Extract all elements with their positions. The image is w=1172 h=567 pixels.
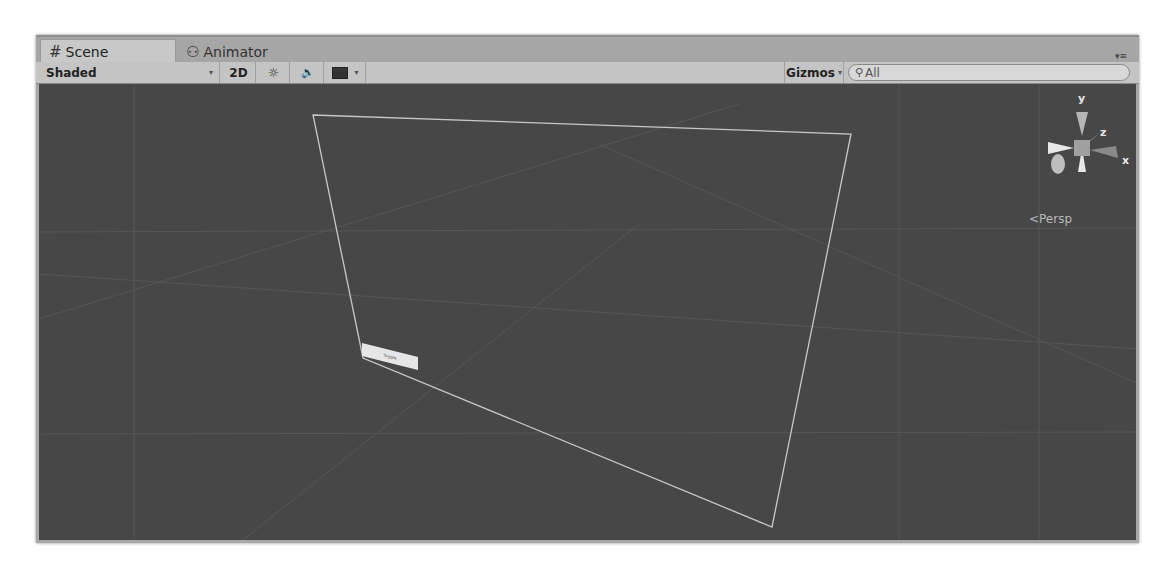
tab-scene[interactable]: # Scene [40, 39, 176, 64]
speaker-icon: 🔈 [301, 66, 315, 79]
search-icon: ⚲ [855, 66, 863, 79]
tab-animator-label: Animator [203, 44, 267, 60]
audio-toggle-button[interactable]: 🔈 [292, 62, 324, 83]
chevron-down-icon: ▾ [209, 68, 213, 77]
toggle-2d-button[interactable]: 2D [222, 62, 256, 83]
scene-window: # Scene ⚇ Animator ▾≡ Shaded ▾ 2D ☼ 🔈 ▾ … [36, 35, 1139, 543]
gizmos-dropdown[interactable]: Gizmos ▾ [784, 62, 844, 83]
image-icon [332, 67, 348, 79]
axis-gizmo-icon [1038, 92, 1128, 192]
scene-search-input[interactable]: ⚲ All [848, 64, 1130, 81]
scene-viewport[interactable]: Toggle y z x <Persp [36, 84, 1139, 543]
orientation-gizmo[interactable]: y z x [1038, 92, 1128, 192]
scene-grid [39, 84, 1139, 543]
projection-label: Persp [1039, 212, 1072, 226]
x-axis-label: x [1122, 154, 1129, 167]
gizmos-label: Gizmos [786, 66, 835, 80]
draw-mode-label: Shaded [46, 66, 97, 80]
z-axis-label: z [1100, 126, 1106, 139]
y-axis-label: y [1078, 92, 1085, 105]
window-menu-icon[interactable]: ▾≡ [1115, 51, 1127, 61]
chevron-down-icon: ▾ [354, 68, 358, 77]
grid-hash-icon: # [49, 43, 62, 61]
lighting-toggle-button[interactable]: ☼ [258, 62, 290, 83]
sun-icon: ☼ [268, 66, 279, 80]
effects-dropdown-button[interactable]: ▾ [326, 62, 366, 83]
tab-strip: # Scene ⚇ Animator ▾≡ [36, 35, 1139, 62]
tab-scene-label: Scene [66, 44, 109, 60]
animator-nodes-icon: ⚇ [186, 43, 199, 61]
scene-toolbar: Shaded ▾ 2D ☼ 🔈 ▾ Gizmos ▾ ⚲ All [36, 62, 1139, 84]
projection-toggle[interactable]: <Persp [1029, 212, 1072, 226]
tab-animator[interactable]: ⚇ Animator [178, 39, 328, 64]
draw-mode-dropdown[interactable]: Shaded ▾ [40, 62, 220, 83]
search-placeholder: All [865, 66, 880, 80]
arrow-left-icon: < [1029, 212, 1039, 226]
chevron-down-icon: ▾ [838, 68, 842, 77]
